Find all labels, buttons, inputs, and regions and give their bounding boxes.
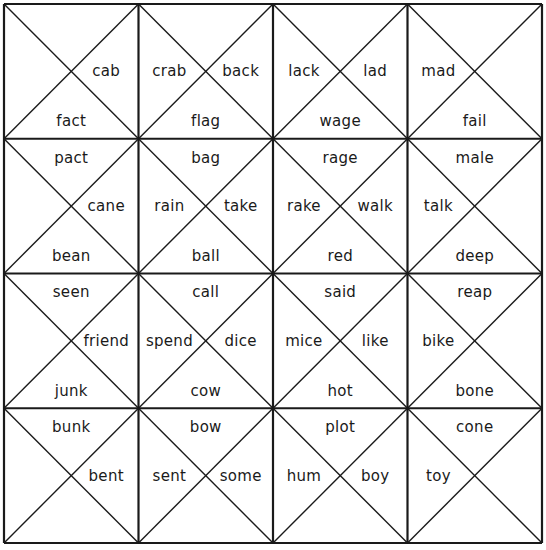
word-bottom: fact	[56, 114, 86, 129]
word-right: cane	[88, 199, 125, 214]
word-bottom: fail	[463, 114, 487, 129]
word-left: hum	[287, 468, 322, 483]
word-bottom: cow	[190, 383, 221, 398]
word-left: rain	[154, 199, 184, 214]
word-bottom: hot	[328, 383, 353, 398]
word-right: take	[224, 199, 258, 214]
puzzle-cell: bowsomesent	[139, 408, 274, 543]
word-left: lack	[288, 64, 320, 79]
word-top: plot	[325, 420, 355, 435]
puzzle-cell: plotboyhum	[273, 408, 408, 543]
word-left: toy	[426, 468, 451, 483]
word-right: boy	[361, 468, 389, 483]
word-bottom: red	[328, 248, 354, 263]
word-left: spend	[146, 333, 193, 348]
word-bottom: flag	[191, 114, 220, 129]
word-right: walk	[357, 199, 393, 214]
word-right: bent	[89, 468, 124, 483]
puzzle-cell: ladwagelack	[273, 4, 408, 139]
puzzle-cell: maledeeptalk	[408, 139, 543, 274]
word-left: mice	[285, 333, 322, 348]
word-top: seen	[53, 285, 90, 300]
puzzle-cell: bunkbent	[4, 408, 139, 543]
word-bottom: bone	[455, 383, 494, 398]
word-top: cone	[456, 420, 493, 435]
word-left: sent	[153, 468, 187, 483]
word-right: lad	[363, 64, 387, 79]
word-left: talk	[424, 199, 453, 214]
word-top: pact	[54, 150, 88, 165]
word-right: dice	[225, 333, 257, 348]
puzzle-cell: cabfact	[4, 4, 139, 139]
word-top: rage	[323, 150, 358, 165]
word-top: bunk	[52, 420, 90, 435]
puzzle-cell: pactcanebean	[4, 139, 139, 274]
word-top: bag	[191, 150, 220, 165]
word-top: male	[456, 150, 494, 165]
word-top: call	[192, 285, 219, 300]
word-bottom: deep	[455, 248, 494, 263]
word-puzzle-grid: cabfactbackflagcrabladwagelackfailmadpac…	[4, 4, 542, 543]
puzzle-cell: backflagcrab	[139, 4, 274, 139]
puzzle-cell: bagtakeballrain	[139, 139, 274, 274]
word-right: like	[362, 333, 389, 348]
puzzle-cell: reapbonebike	[408, 274, 543, 409]
word-left: mad	[421, 64, 455, 79]
puzzle-cell: seenfriendjunk	[4, 274, 139, 409]
word-top: said	[324, 285, 356, 300]
puzzle-cell: failmad	[408, 4, 543, 139]
word-bottom: bean	[52, 248, 91, 263]
word-bottom: wage	[320, 114, 361, 129]
word-left: bike	[422, 333, 454, 348]
puzzle-cell: saidlikehotmice	[273, 274, 408, 409]
word-right: some	[220, 468, 262, 483]
word-top: reap	[457, 285, 492, 300]
word-right: cab	[92, 64, 120, 79]
word-right: friend	[83, 333, 129, 348]
word-bottom: ball	[192, 248, 220, 263]
word-left: rake	[287, 199, 321, 214]
word-left: crab	[152, 64, 186, 79]
word-bottom: junk	[55, 383, 88, 398]
puzzle-cell: calldicecowspend	[139, 274, 274, 409]
word-top: bow	[190, 420, 222, 435]
puzzle-cell: ragewalkredrake	[273, 139, 408, 274]
word-right: back	[222, 64, 259, 79]
puzzle-cell: conetoy	[408, 408, 543, 543]
